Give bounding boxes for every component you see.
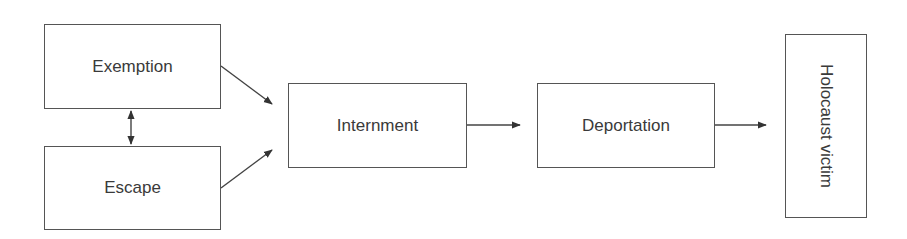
node-label: Escape [104,178,161,198]
node-exemption: Exemption [44,24,221,109]
node-escape: Escape [44,146,221,230]
arrow-exemption-internment [221,66,272,104]
node-label: Deportation [582,116,670,136]
node-label: Exemption [92,57,172,77]
flow-diagram: Exemption Escape Internment Deportation … [0,0,907,239]
node-internment: Internment [288,83,467,168]
node-holocaust-victim: Holocaust victim [785,34,867,218]
node-label: Holocaust victim [816,64,836,188]
node-label: Internment [337,116,418,136]
arrow-escape-internment [221,150,272,188]
node-deportation: Deportation [537,83,715,168]
